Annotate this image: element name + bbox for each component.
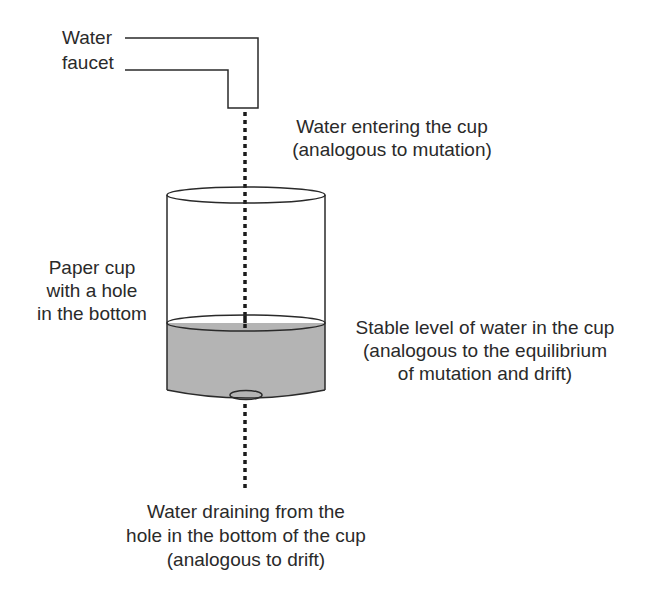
paper-cup-line2: with a hole <box>46 280 138 301</box>
label-stable-level: Stable level of water in the cup (analog… <box>356 317 615 384</box>
water-draining-line2: hole in the bottom of the cup <box>126 525 366 546</box>
label-water-entering: Water entering the cup (analogous to mut… <box>292 116 492 160</box>
paper-cup-line3: in the bottom <box>37 303 147 324</box>
water-faucet <box>125 38 258 108</box>
water-draining-line3: (analogous to drift) <box>167 549 325 570</box>
stable-level-line3: of mutation and drift) <box>398 363 572 384</box>
stable-level-line2: (analogous to the equilibrium <box>363 340 607 361</box>
paper-cup-line1: Paper cup <box>49 257 136 278</box>
stable-level-line1: Stable level of water in the cup <box>356 317 615 338</box>
label-water-faucet: Water faucet <box>62 27 114 73</box>
water-draining-line1: Water draining from the <box>147 501 345 522</box>
water-body <box>167 323 325 398</box>
label-paper-cup: Paper cup with a hole in the bottom <box>37 257 147 324</box>
label-water-draining: Water draining from the hole in the bott… <box>126 501 366 570</box>
faucet-label-line1: Water <box>62 27 113 48</box>
water-entering-line1: Water entering the cup <box>296 116 488 137</box>
mutation-drift-cup-diagram: Water faucet Water entering the cup (ana… <box>0 0 659 591</box>
water-entering-line2: (analogous to mutation) <box>292 139 492 160</box>
faucet-outline <box>125 38 258 108</box>
faucet-label-line2: faucet <box>62 52 114 73</box>
